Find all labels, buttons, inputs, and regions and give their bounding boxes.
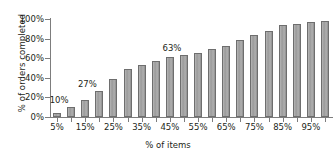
y-axis-tick-label: 80%	[14, 34, 44, 44]
x-axis-tick-label: 45%	[160, 122, 179, 132]
x-axis-tick-label: 5%	[50, 122, 64, 132]
bar-value-annotation: 27%	[78, 79, 97, 89]
bar	[222, 46, 230, 117]
x-axis-tick-mark	[128, 118, 129, 122]
bar	[53, 113, 61, 117]
y-axis-tick-mark	[45, 117, 50, 118]
x-axis-tick-mark	[325, 118, 326, 122]
y-axis-tick-mark	[45, 39, 50, 40]
bar	[236, 40, 244, 117]
x-axis-tick-mark	[297, 118, 298, 122]
y-axis-tick-label: 20%	[14, 92, 44, 102]
x-axis-title: % of items	[0, 140, 336, 150]
y-axis-tick-mark	[45, 19, 50, 20]
bar	[109, 79, 117, 117]
x-axis-tick-label: 85%	[273, 122, 292, 132]
bar	[180, 55, 188, 117]
x-axis-tick-mark	[212, 118, 213, 122]
x-axis-tick-label: 55%	[189, 122, 208, 132]
x-axis-tick-mark	[240, 118, 241, 122]
y-axis-tick-label: 0%	[14, 112, 44, 122]
bar	[124, 69, 132, 117]
y-axis-tick-label: 60%	[14, 53, 44, 63]
x-axis-tick-mark	[71, 118, 72, 122]
plot-area	[50, 19, 332, 117]
y-axis-tick-mark	[45, 58, 50, 59]
y-axis-tick-mark	[45, 78, 50, 79]
bar	[307, 22, 315, 117]
bar-value-annotation: 63%	[162, 43, 181, 53]
x-axis-tick-label: 95%	[301, 122, 320, 132]
x-axis-tick-mark	[156, 118, 157, 122]
bar	[152, 61, 160, 117]
y-axis-tick-label: 100%	[14, 14, 44, 24]
bar	[321, 21, 329, 117]
bar	[208, 49, 216, 117]
x-axis-tick-label: 25%	[104, 122, 123, 132]
bar	[95, 91, 103, 117]
y-axis-tick-label: 40%	[14, 73, 44, 83]
bar	[194, 53, 202, 117]
bar	[138, 65, 146, 117]
x-axis-tick-label: 35%	[132, 122, 151, 132]
bar	[166, 57, 174, 117]
x-axis-tick-label: 15%	[76, 122, 95, 132]
bar	[81, 100, 89, 117]
x-axis-tick-label: 75%	[245, 122, 264, 132]
bar-value-annotation: 10%	[50, 95, 69, 105]
x-axis-tick-mark	[184, 118, 185, 122]
bar	[279, 25, 287, 117]
bar	[265, 31, 273, 117]
x-axis-line	[50, 117, 333, 118]
bar-chart: % of orders completed 0%20%40%60%80%100%…	[0, 0, 336, 161]
x-axis-tick-label: 65%	[217, 122, 236, 132]
bar	[250, 35, 258, 117]
y-axis-tick-labels: 0%20%40%60%80%100%	[14, 0, 44, 161]
bar	[293, 24, 301, 117]
x-axis-tick-mark	[99, 118, 100, 122]
bar	[67, 107, 75, 117]
x-axis-tick-mark	[269, 118, 270, 122]
